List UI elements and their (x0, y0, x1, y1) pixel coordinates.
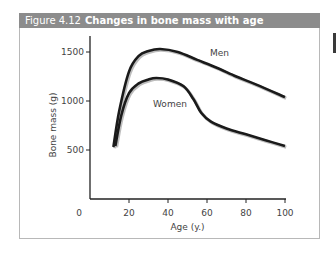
x-tick-label: 60 (201, 208, 213, 218)
x-tick-label: 100 (276, 208, 293, 218)
line-men (113, 49, 285, 147)
y-axis-label: Bone mass (g) (48, 92, 58, 157)
y-tick-label: 500 (67, 145, 84, 155)
series-label-women: Women (153, 99, 187, 109)
x-tick-label: 80 (240, 208, 252, 218)
series-label-men: Men (210, 48, 229, 58)
x-tick-label: 20 (123, 208, 135, 218)
bone-mass-chart: 50010001500020406080100Age (y.)Bone mass… (0, 0, 336, 255)
series-lines (113, 49, 286, 148)
axes: 50010001500020406080100Age (y.)Bone mass… (48, 36, 294, 232)
x-axis-label: Age (y.) (170, 222, 204, 232)
x-tick-label: 0 (76, 208, 82, 218)
x-tick-label: 40 (162, 208, 174, 218)
y-tick-label: 1000 (61, 96, 84, 106)
y-tick-label: 1500 (61, 47, 84, 57)
